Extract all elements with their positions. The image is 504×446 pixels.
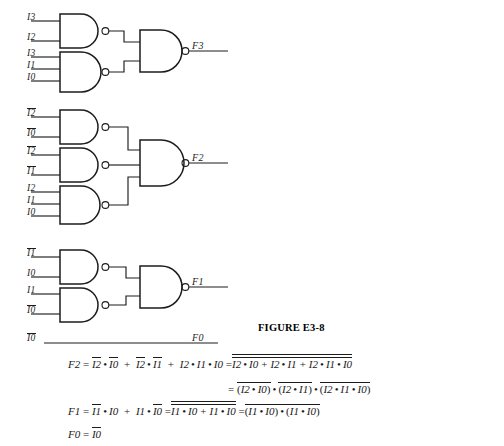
nand-gate-f1-b xyxy=(60,288,109,322)
term-i2bar-1: I2 xyxy=(92,358,101,370)
equals-sign-4: = xyxy=(83,405,89,417)
nand-gate-f2-b xyxy=(60,148,109,182)
term-i2bar-3: I2 xyxy=(232,358,241,370)
equation-f2-line2: = (I2•I0) • (I2•I1) • (I2•I1•I0) xyxy=(0,377,504,400)
nand-gate-f3-a xyxy=(60,14,109,48)
equation-f2-line1: F2 = I2•I0 + I2•I1 + I2•I1•I0 =I2•I0+I2•… xyxy=(0,356,504,377)
double-bar-group-f1: I1•I0+I1•I0 xyxy=(171,405,236,417)
output-label-f3: F3 xyxy=(192,41,204,51)
nand-gate-f1-out xyxy=(140,266,189,308)
wire-f2c-to-out xyxy=(109,177,140,205)
input-label-f3b-i0: I0 xyxy=(27,73,36,83)
output-label-f2: F2 xyxy=(192,153,204,163)
input-label-f1b-i1: I1 xyxy=(27,286,36,296)
figure-caption: FIGURE E3-8 xyxy=(258,322,325,333)
input-label-f3a-i3: I3 xyxy=(27,13,36,23)
wire-f3a-to-out xyxy=(109,31,140,42)
input-label-f2c-i2: I2 xyxy=(27,184,36,194)
term-i2bar-4: I2 xyxy=(270,358,279,370)
eq-f1-lhs: F1 xyxy=(68,405,80,417)
equation-f0: F0 = I0 xyxy=(0,422,504,443)
input-label-f1b-i0bar: I0 xyxy=(27,305,36,316)
input-label-f2b-i2bar: I2 xyxy=(27,146,36,157)
input-label-f1a-i0: I0 xyxy=(27,269,36,279)
wire-f1a-to-out xyxy=(109,267,140,278)
plus-sign-2: + xyxy=(165,358,177,370)
nand-gate-f1-a xyxy=(60,250,109,284)
input-label-f2b-i1bar: I1 xyxy=(27,166,36,177)
input-label-f2c-i1: I1 xyxy=(27,196,36,206)
figure-page: I3 I2 I3 I1 I0 F3 I2 I0 I2 I1 I2 I1 I0 F… xyxy=(0,0,504,446)
group-i2bar-i1bar: (I2•I1) xyxy=(278,383,312,395)
term-i2-1: I2 xyxy=(180,358,189,370)
nand-gate-f2-c xyxy=(60,186,109,224)
double-bar-group-f2: I2•I0+I2•I1+I2•I1•I0 xyxy=(232,358,352,370)
plus-sign-3: + xyxy=(121,405,133,417)
input-label-f2a-i2bar: I2 xyxy=(27,108,36,119)
output-label-f0: F0 xyxy=(192,333,204,343)
term-i0-1: I0 xyxy=(214,358,223,370)
group-i2-i1-i0: (I2•I1•I0) xyxy=(320,383,371,395)
term-i2bar-2: I2 xyxy=(136,358,145,370)
input-label-f0-i0bar: I0 xyxy=(27,333,36,344)
eq-f0-lhs: F0 xyxy=(68,428,80,440)
equals-sign-1: = xyxy=(83,358,89,370)
plus-sign-1: + xyxy=(121,358,133,370)
term-i0bar-3: I0 xyxy=(153,405,162,417)
equals-sign-7: = xyxy=(83,428,89,440)
input-label-f2c-i0: I0 xyxy=(27,208,36,218)
nand-gate-f2-a xyxy=(60,110,109,144)
term-i0bar-2: I0 xyxy=(249,358,258,370)
equals-sign-3: = xyxy=(228,383,234,395)
input-label-f1a-i1bar: I1 xyxy=(27,248,36,259)
output-label-f1: F1 xyxy=(192,277,204,287)
eq-f2-lhs: F2 xyxy=(68,358,80,370)
f1-product-form: (I1•I0)•(I1•I0) xyxy=(245,405,320,417)
input-label-f3a-i2: I2 xyxy=(27,33,36,43)
input-label-f2a-i0bar: I0 xyxy=(27,128,36,139)
boolean-equations: F2 = I2•I0 + I2•I1 + I2•I1•I0 =I2•I0+I2•… xyxy=(0,356,504,443)
term-i0bar-4: I0 xyxy=(92,428,101,440)
nand-gate-f3-out xyxy=(140,30,189,72)
nand-gate-f2-out xyxy=(140,140,189,186)
wire-f1b-to-out xyxy=(109,296,140,305)
term-i1bar-3: I1 xyxy=(92,405,101,417)
nand-gate-f3-b xyxy=(60,52,109,92)
term-i0-bar-x: I0 xyxy=(343,358,352,370)
group-i2bar-i0bar: (I2•I0) xyxy=(237,383,271,395)
term-i1-1: I1 xyxy=(197,358,206,370)
term-i1bar-1: I1 xyxy=(153,358,162,370)
term-i1bar-2: I1 xyxy=(287,358,296,370)
input-label-f3b-i1: I1 xyxy=(27,61,36,71)
wire-f2a-to-out xyxy=(109,127,140,150)
equation-f1: F1 = I1•I0 + I1•I0 =I1•I0+I1•I0 =(I1•I0)… xyxy=(0,400,504,422)
wire-f3b-to-out xyxy=(109,61,140,72)
input-label-f3b-i3: I3 xyxy=(27,49,36,59)
term-i0bar-1: I0 xyxy=(109,358,118,370)
